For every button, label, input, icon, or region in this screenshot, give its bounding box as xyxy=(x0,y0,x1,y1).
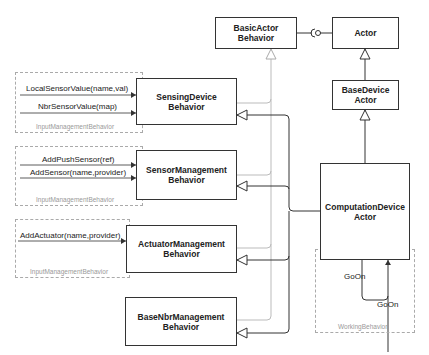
class-base-device-actor: BaseDeviceActor xyxy=(332,80,399,110)
class-computation-device-actor: ComputationDeviceActor xyxy=(320,163,410,260)
class-name-line2: Behavior xyxy=(156,102,216,112)
class-name-line1: BaseNbrManagement xyxy=(138,312,225,322)
message-local-sensor-value: LocalSensorValue(name,val) xyxy=(26,84,128,93)
input-group-1-label: InputManagementBehavior xyxy=(36,123,114,130)
behavior-to-basic-inheritance xyxy=(237,49,271,320)
working-behavior-group xyxy=(315,249,415,333)
message-add-actuator: AddActuator(name,provider) xyxy=(20,231,121,240)
class-name: Actor xyxy=(354,28,376,38)
class-name-line1: BaseDevice xyxy=(342,85,390,95)
message-nbr-sensor-value: NbrSensorValue(map) xyxy=(38,102,117,111)
class-name-line2: Behavior xyxy=(146,175,227,185)
message-add-sensor: AddSensor(name,provider) xyxy=(30,168,126,177)
class-name-line2: Actor xyxy=(342,95,390,105)
computation-to-behaviors xyxy=(237,115,320,333)
class-name-line1: ActuatorManagement xyxy=(138,239,225,249)
class-name-line1: BasicActor xyxy=(234,23,279,33)
class-base-nbr-management-behavior: BaseNbrManagementBehavior xyxy=(125,297,237,346)
message-add-push-sensor: AddPushSensor(ref) xyxy=(42,155,114,164)
class-name-line2: Behavior xyxy=(138,249,225,259)
input-group-3-label: InputManagementBehavior xyxy=(30,268,108,275)
message-goon-2: GoOn xyxy=(377,300,398,309)
class-sensor-management-behavior: SensorManagementBehavior xyxy=(136,150,237,200)
class-name-line1: SensorManagement xyxy=(146,165,227,175)
input-group-2-label: InputManagementBehavior xyxy=(36,196,114,203)
class-name-line2: Behavior xyxy=(234,33,279,43)
class-sensing-device-behavior: SensingDeviceBehavior xyxy=(136,78,237,125)
class-actor: Actor xyxy=(332,17,399,49)
class-name-line1: SensingDevice xyxy=(156,92,216,102)
class-name-line2: Actor xyxy=(325,212,405,222)
interface-connector xyxy=(296,29,332,37)
message-goon-1: GoOn xyxy=(344,272,365,281)
class-basic-actor-behavior: BasicActorBehavior xyxy=(215,17,297,49)
class-name-line2: Behavior xyxy=(138,322,225,332)
class-actuator-management-behavior: ActuatorManagementBehavior xyxy=(126,225,237,273)
class-name-line1: ComputationDevice xyxy=(325,202,405,212)
working-behavior-label: WorkingBehavior xyxy=(338,323,387,330)
